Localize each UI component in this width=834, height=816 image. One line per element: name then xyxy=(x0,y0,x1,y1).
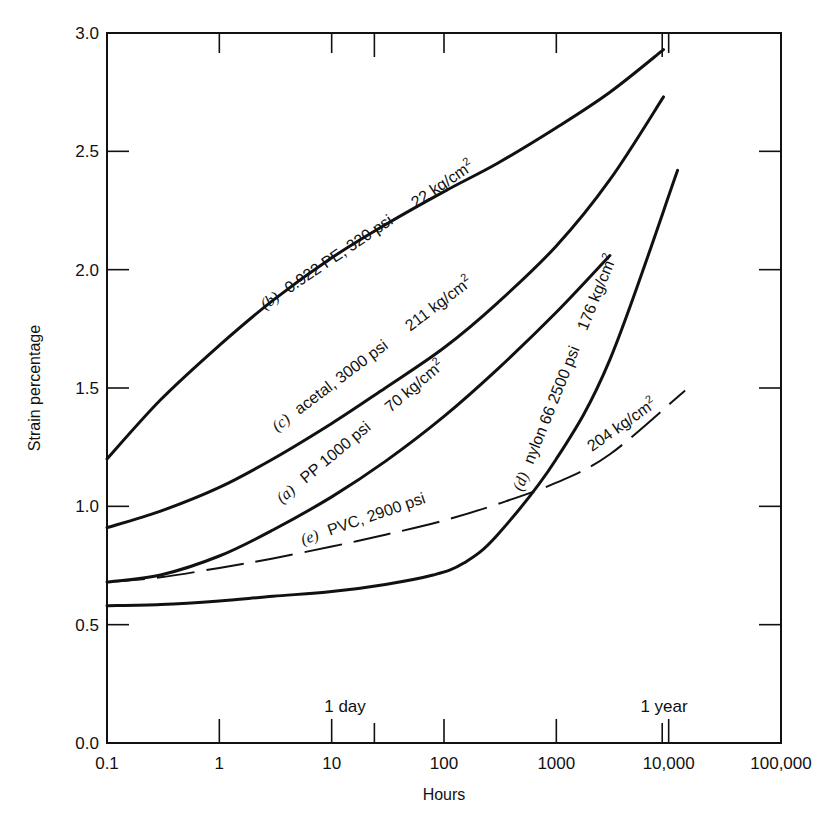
x-axis: 0.1110100100010,000100,000 xyxy=(95,33,812,773)
x-tick-label: 10 xyxy=(322,754,341,773)
curve-tag-d: (d) xyxy=(509,469,533,493)
x-axis-title: Hours xyxy=(423,786,466,803)
curve-e xyxy=(107,390,685,582)
y-tick-label: 1.5 xyxy=(75,379,99,398)
y-tick-label: 2.5 xyxy=(75,142,99,161)
x-tick-label: 10,000 xyxy=(643,754,695,773)
plot-frame xyxy=(107,33,781,743)
creep-strain-chart: 0.00.51.01.52.02.53.0 0.1110100100010,00… xyxy=(0,0,834,816)
x-tick-label: 1000 xyxy=(537,754,575,773)
curve-tag-e: (e) xyxy=(298,526,321,549)
curve-text-d: nylon 66 2500 psi xyxy=(520,343,583,466)
y-axis-title: Strain percentage xyxy=(26,325,43,451)
annotation-1-day: 1 day xyxy=(324,697,366,716)
annotation-1-year: 1 year xyxy=(640,697,688,716)
y-tick-label: 3.0 xyxy=(75,24,99,43)
x-tick-label: 100 xyxy=(430,754,458,773)
plot-border xyxy=(107,33,781,743)
curve-text-b: 0.922 PE, 320 psi xyxy=(281,211,395,296)
y-tick-label: 1.0 xyxy=(75,497,99,516)
y-tick-label: 0.5 xyxy=(75,616,99,635)
curves xyxy=(107,50,685,606)
x-tick-label: 1 xyxy=(215,754,224,773)
curve-text-c: acetal, 3000 psi xyxy=(291,336,391,417)
curve-label-c: (c) acetal, 3000 psi 211 kg/cm2 xyxy=(267,271,476,436)
y-axis: 0.00.51.01.52.02.53.0 xyxy=(75,24,781,753)
curve-a xyxy=(107,256,610,583)
curve-tag-c: (c) xyxy=(269,410,294,435)
y-tick-label: 0.0 xyxy=(75,734,99,753)
curve-label-a: (a) PP 1000 psi 70 kg/cm2 xyxy=(271,354,447,507)
curve-tag-a: (a) xyxy=(273,481,299,507)
curve-metric-b: 22 kg/cm xyxy=(408,160,471,210)
curve-d xyxy=(107,170,678,605)
y-tick-label: 2.0 xyxy=(75,261,99,280)
curve-text-e: PVC, 2900 psi xyxy=(325,489,427,538)
curve-b xyxy=(107,50,664,459)
x-tick-label: 100,000 xyxy=(750,754,811,773)
curve-metric-c: 211 kg/cm xyxy=(402,277,470,334)
x-tick-label: 0.1 xyxy=(95,754,119,773)
